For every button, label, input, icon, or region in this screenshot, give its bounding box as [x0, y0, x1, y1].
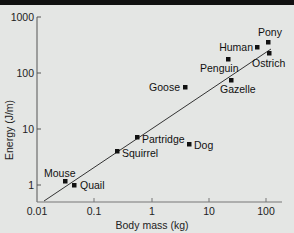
y-axis-title: Energy (J/m): [3, 100, 15, 160]
point-mouse: [63, 179, 68, 184]
point-gazelle: [229, 78, 234, 83]
point-quail: [72, 183, 77, 188]
point-squirrel: [115, 149, 120, 154]
point-partridge: [135, 135, 140, 140]
y-tick-label: 10: [22, 123, 34, 135]
x-tick-label: 10: [203, 205, 215, 217]
point-dog: [187, 142, 192, 147]
point-human: [255, 45, 260, 50]
point-pony: [266, 40, 271, 45]
label-gazelle: Gazelle: [220, 83, 256, 95]
x-tick-label: 100: [257, 205, 275, 217]
label-human: Human: [219, 41, 253, 53]
label-partridge: Partridge: [142, 133, 185, 145]
chart-frame: 1000 100 10 1 0.01 0.1 1 10 100 Body mas…: [0, 0, 294, 233]
x-tick-label: 1: [149, 205, 155, 217]
label-quail: Quail: [80, 179, 105, 191]
label-penguin: Penguin: [200, 62, 239, 74]
label-mouse: Mouse: [44, 167, 76, 179]
y-tick-label: 1: [28, 179, 34, 191]
label-ostrich: Ostrich: [252, 57, 285, 69]
label-goose: Goose: [149, 81, 180, 93]
scatter-plot: 1000 100 10 1 0.01 0.1 1 10 100 Body mas…: [0, 0, 294, 233]
label-dog: Dog: [194, 139, 213, 151]
label-pony: Pony: [258, 26, 283, 38]
x-tick-label: 0.01: [27, 205, 48, 217]
x-tick-label: 0.1: [87, 205, 102, 217]
y-tick-label: 100: [16, 67, 34, 79]
label-squirrel: Squirrel: [122, 147, 158, 159]
point-ostrich: [267, 51, 272, 56]
point-penguin: [226, 57, 231, 62]
x-axis-title: Body mass (kg): [116, 219, 189, 231]
point-goose: [183, 85, 188, 90]
y-tick-label: 1000: [11, 11, 35, 23]
